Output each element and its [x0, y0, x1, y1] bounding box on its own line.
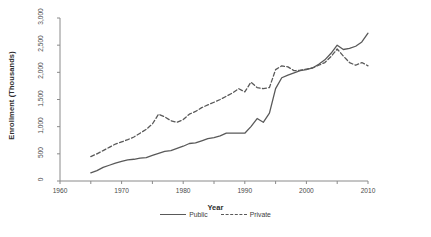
legend-swatch-public-icon [160, 214, 186, 215]
y-axis-tick-label: 1,000 [37, 110, 44, 140]
series-line-private [91, 49, 368, 157]
y-axis-tick-label: 3,000 [37, 2, 44, 32]
series-line-public [91, 33, 368, 173]
legend-item-private[interactable]: Private [221, 211, 271, 218]
legend-swatch-private-icon [221, 214, 247, 215]
x-axis-tick-label: 1990 [225, 187, 265, 194]
y-axis-tick-label: 2,000 [37, 56, 44, 86]
x-axis-tick-label: 2010 [348, 187, 388, 194]
x-axis-tick-label: 1960 [40, 187, 80, 194]
x-axis-tick-label: 1980 [163, 187, 203, 194]
legend-item-public[interactable]: Public [160, 211, 208, 218]
chart-legend: PublicPrivate [0, 211, 431, 218]
y-axis-tick-label: 500 [37, 137, 44, 167]
x-axis-tick-label: 1970 [102, 187, 142, 194]
legend-label: Public [189, 211, 208, 218]
x-axis-tick-label: 2000 [286, 187, 326, 194]
plot-area [0, 0, 431, 200]
y-axis-tick-label: 1,500 [37, 83, 44, 113]
legend-label: Private [250, 211, 271, 218]
y-axis-tick-label: 2,500 [37, 29, 44, 59]
chart-container: Enrollment (Thousands) 05001,0001,5002,0… [0, 0, 431, 237]
